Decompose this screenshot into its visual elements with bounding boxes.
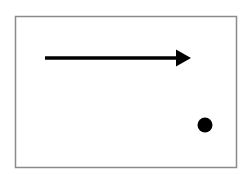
dot-marker <box>198 118 213 133</box>
diagram-canvas <box>0 0 252 174</box>
frame-border <box>16 17 237 168</box>
